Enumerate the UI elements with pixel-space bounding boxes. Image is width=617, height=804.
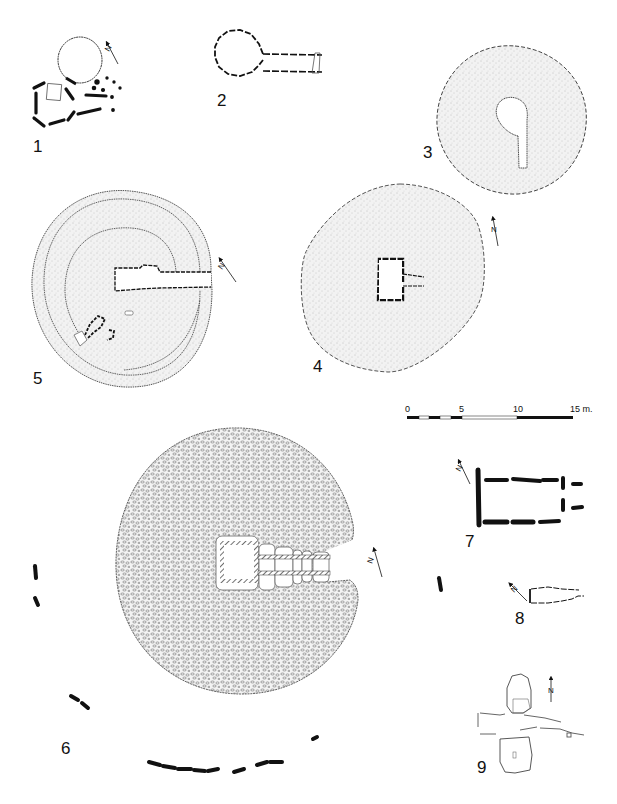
north-label: N [548,686,554,695]
figure-2: 2 [215,30,322,110]
figure-4: N 4 [301,184,498,376]
figure-7: N 7 [454,461,582,551]
figure-label: 2 [217,91,226,110]
north-label: N [454,463,465,473]
north-arrow-icon [374,549,382,577]
figure-label: 1 [33,137,42,156]
figure-6: N 6 [35,428,441,772]
north-label: N [365,556,376,565]
stone-rows [478,713,584,737]
figure-label: 6 [61,739,70,758]
scale-bar: 0 5 10 15 m. [405,404,593,419]
figure-8: N 8 [509,584,584,628]
chamber-stones [478,470,582,525]
chamber-outline [531,587,579,590]
figure-label: 7 [465,532,474,551]
capstone [46,83,61,100]
figure-label: 3 [423,143,432,162]
north-label: N [491,225,497,234]
figure-9: N 9 [477,674,584,777]
scale-tick-15: 15 m. [570,404,593,414]
cairn-outline [58,37,102,83]
figure-5: N 5 [32,191,236,388]
plate-of-site-plans: N 1 2 3 N 4 N 5 [0,0,617,804]
scale-tick-0: 0 [405,404,410,414]
scale-tick-5: 5 [459,404,464,414]
cist-north [507,674,531,713]
figure-label: 4 [313,357,322,376]
figure-label: 9 [477,758,486,777]
chamber-outline [215,30,263,76]
north-label: N [509,584,520,595]
figure-3: 3 [423,46,586,194]
north-label: N [216,261,227,271]
end-stone [312,53,320,73]
figure-1: N 1 [33,37,121,156]
scale-tick-10: 10 [513,404,523,414]
figure-label: 8 [515,609,524,628]
figure-label: 5 [33,369,42,388]
